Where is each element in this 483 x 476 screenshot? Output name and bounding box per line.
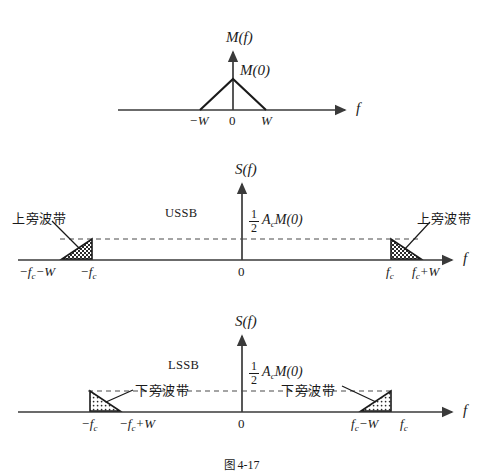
ussb-amplitude-expression: 1 2 AcM(0) bbox=[249, 205, 303, 234]
ussb-sideband-label-right: 上旁波带 bbox=[417, 212, 471, 225]
ussb-amplitude-denominator: 2 bbox=[249, 221, 259, 235]
ussb-tick-1-sub: c bbox=[92, 271, 96, 281]
lssb-tick-4-sub: c bbox=[404, 423, 408, 433]
lssb-mode-label: LSSB bbox=[168, 359, 199, 372]
ussb-amplitude-tail: M(0) bbox=[275, 212, 303, 227]
ussb-horizontal-axis-label: f bbox=[463, 251, 467, 266]
ussb-vertical-axis-label: S(f) bbox=[235, 162, 257, 177]
ussb-tick-4-tail: +W bbox=[420, 264, 440, 279]
lssb-tick-0-base: −f bbox=[81, 416, 93, 431]
ussb-tick-0-tail: −W bbox=[36, 264, 56, 279]
panel-ussb-geometry bbox=[18, 184, 452, 260]
ussb-tick-1-base: −f bbox=[80, 264, 92, 279]
ussb-tick-neg-fc-minus-w: −fc−W bbox=[19, 265, 55, 281]
baseband-horizontal-axis-label: f bbox=[356, 101, 360, 116]
baseband-tick-pos-w: W bbox=[261, 114, 272, 127]
lssb-amplitude-expression: 1 2 AcM(0) bbox=[249, 357, 303, 386]
ussb-tick-zero: 0 bbox=[238, 265, 245, 278]
lssb-tick-1-base: −f bbox=[119, 416, 131, 431]
ussb-tick-pos-fc: fc bbox=[386, 265, 394, 281]
lssb-tick-pos-fc: fc bbox=[400, 417, 408, 433]
lssb-vertical-axis-label: S(f) bbox=[235, 314, 257, 329]
lssb-tick-neg-fc: −fc bbox=[81, 417, 98, 433]
baseband-tick-neg-w: −W bbox=[189, 114, 209, 127]
ussb-amplitude-numerator: 1 bbox=[249, 208, 259, 221]
panel-baseband-geometry bbox=[118, 52, 345, 110]
lssb-tick-neg-fc-plus-w: −fc+W bbox=[119, 417, 155, 433]
lssb-tick-pos-fc-minus-w: fc−W bbox=[351, 417, 378, 433]
lssb-horizontal-axis-label: f bbox=[463, 403, 467, 418]
baseband-peak-label: M(0) bbox=[240, 63, 270, 78]
lssb-tick-0-sub: c bbox=[93, 423, 97, 433]
lssb-tick-zero: 0 bbox=[238, 417, 245, 430]
panel-lssb-geometry bbox=[18, 336, 452, 412]
lssb-tick-3-tail: −W bbox=[359, 416, 379, 431]
lssb-amplitude-numerator: 1 bbox=[249, 360, 259, 373]
lssb-sideband-label-left: 下旁波带 bbox=[135, 384, 189, 397]
ussb-tick-3-sub: c bbox=[390, 271, 394, 281]
ussb-sideband-label-left: 上旁波带 bbox=[12, 212, 66, 225]
figure-caption: 图 4-17 bbox=[0, 456, 483, 473]
lssb-amplitude-tail: M(0) bbox=[275, 364, 303, 379]
figure-caption-cjk: 图 bbox=[224, 458, 235, 472]
figure-4-17: M(f) f M(0) −W 0 W S(f) f USSB 1 2 AcM(0… bbox=[0, 0, 483, 476]
lssb-amplitude-denominator: 2 bbox=[249, 373, 259, 387]
ussb-tick-pos-fc-plus-w: fc+W bbox=[412, 265, 439, 281]
ussb-amplitude-carrier: A bbox=[262, 212, 271, 227]
baseband-tick-zero: 0 bbox=[229, 114, 236, 127]
lssb-sideband-label-right: 下旁波带 bbox=[281, 384, 335, 397]
ussb-mode-label: USSB bbox=[165, 207, 197, 220]
lssb-tick-1-tail: +W bbox=[136, 416, 156, 431]
lssb-amplitude-fraction: 1 2 bbox=[249, 360, 259, 386]
ussb-tick-neg-fc: −fc bbox=[80, 265, 97, 281]
ussb-tick-0-base: −f bbox=[19, 264, 31, 279]
figure-caption-value: 4-17 bbox=[238, 458, 260, 472]
baseband-vertical-axis-label: M(f) bbox=[226, 30, 253, 45]
lssb-amplitude-carrier: A bbox=[262, 364, 271, 379]
ussb-amplitude-fraction: 1 2 bbox=[249, 208, 259, 234]
